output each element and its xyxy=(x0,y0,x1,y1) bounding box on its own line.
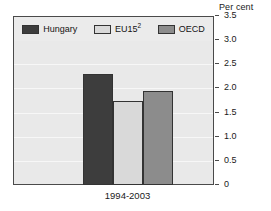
bars-group xyxy=(13,16,214,185)
y-axis-tick-mark xyxy=(215,63,219,64)
x-axis-category-label: 1994-2003 xyxy=(78,190,178,201)
legend-item-oecd: OECD xyxy=(158,24,205,34)
y-axis-tick-mark xyxy=(215,184,219,185)
bar-oecd xyxy=(143,91,173,185)
y-axis-tick-label: 3.0 xyxy=(224,34,237,45)
legend-label: EU152 xyxy=(115,24,141,34)
y-axis-tick-label: 2.5 xyxy=(224,58,237,69)
legend-swatch-icon xyxy=(158,25,175,34)
bar-hungary xyxy=(83,74,113,185)
y-axis-tick-label: 3.5 xyxy=(224,10,237,21)
legend-label: OECD xyxy=(179,24,205,34)
y-axis-tick-mark xyxy=(215,15,219,16)
y-axis-tick-label: 0.5 xyxy=(224,155,237,166)
bar-eu15 xyxy=(113,101,143,186)
y-axis-tick-label: 1.5 xyxy=(224,107,237,118)
y-axis-tick-label: 1.0 xyxy=(224,131,237,142)
legend-label: Hungary xyxy=(43,24,77,34)
y-axis-tick-mark xyxy=(215,160,219,161)
y-axis-tick-label: 0 xyxy=(224,179,229,190)
legend-item-eu15: EU152 xyxy=(94,24,141,34)
y-axis-tick-label: 2.0 xyxy=(224,82,237,93)
legend: HungaryEU152OECD xyxy=(14,17,213,41)
y-axis-tick-mark xyxy=(215,112,219,113)
legend-item-hungary: Hungary xyxy=(22,24,77,34)
bar-chart: Per cent 3.53.02.52.01.51.00.50 HungaryE… xyxy=(0,0,271,211)
legend-swatch-icon xyxy=(94,25,111,34)
y-axis-tick-mark xyxy=(215,136,219,137)
y-axis-tick-mark xyxy=(215,39,219,40)
legend-swatch-icon xyxy=(22,25,39,34)
y-axis-tick-mark xyxy=(215,87,219,88)
